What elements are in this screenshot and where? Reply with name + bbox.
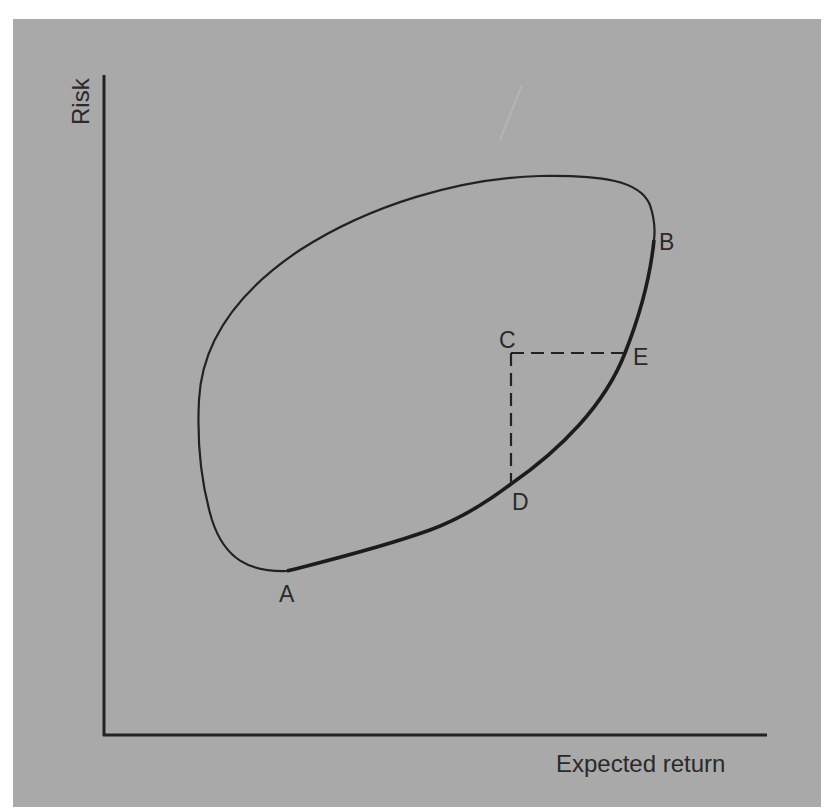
point-label-c: C bbox=[499, 327, 516, 353]
efficient-frontier bbox=[287, 240, 654, 571]
scan-artifact bbox=[500, 85, 522, 140]
point-label-d: D bbox=[512, 489, 529, 515]
point-label-e: E bbox=[633, 344, 648, 370]
point-label-b: B bbox=[659, 229, 674, 255]
x-axis-label: Expected return bbox=[556, 750, 725, 777]
y-axis-label: Risk bbox=[67, 77, 94, 125]
axes bbox=[103, 75, 767, 736]
risk-return-diagram: Risk Expected return A B C D E bbox=[0, 0, 833, 811]
feasible-set-curve bbox=[198, 176, 654, 571]
point-label-a: A bbox=[279, 581, 295, 607]
